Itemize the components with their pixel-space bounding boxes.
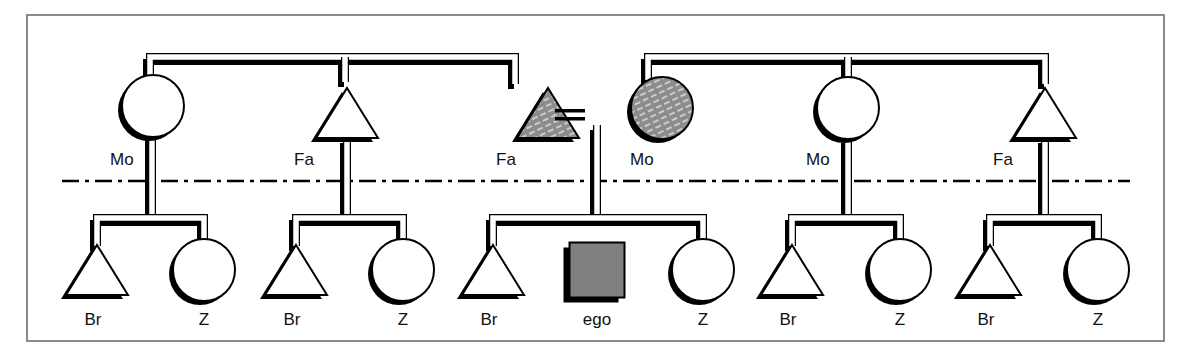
circle-node <box>865 239 931 305</box>
female-circle-icon <box>173 239 235 301</box>
female-circle-icon <box>631 77 693 139</box>
parent-bracket-left <box>146 57 515 89</box>
triangle-node <box>260 245 327 299</box>
circle-node <box>1063 239 1129 305</box>
connector-shadow <box>146 62 511 89</box>
equals-bar-bottom <box>555 117 585 121</box>
parent-label-fa: Fa <box>993 150 1013 169</box>
ego-square-icon <box>570 243 625 298</box>
female-circle-icon <box>672 239 734 301</box>
triangle-node <box>756 245 823 299</box>
female-circle-icon <box>122 75 184 137</box>
descent-stem <box>593 125 597 223</box>
triangle-node <box>954 245 1021 299</box>
male-triangle-icon <box>959 245 1021 295</box>
triangle-node <box>61 245 128 299</box>
descent-stem <box>844 138 848 223</box>
descent-stem <box>148 135 152 223</box>
shaded-circle-node <box>627 77 693 143</box>
parent-label-fa: Fa <box>496 150 516 169</box>
female-circle-icon <box>817 77 879 139</box>
male-triangle-icon <box>66 245 128 295</box>
child-label-br: Br <box>284 310 301 329</box>
descent-stem <box>343 138 347 223</box>
child-label-z: Z <box>895 310 905 329</box>
circle-node <box>169 239 235 305</box>
descent-stem <box>1041 138 1045 223</box>
male-triangle-icon <box>1014 88 1076 138</box>
circle-node <box>118 75 184 141</box>
equals-bar-top <box>555 109 585 113</box>
triangle-node <box>457 245 524 299</box>
circle-node <box>368 239 434 305</box>
male-triangle-icon <box>265 245 327 295</box>
child-label-br: Br <box>978 310 995 329</box>
circle-node <box>668 239 734 305</box>
child-label-br: Br <box>85 310 102 329</box>
parent-label-mo: Mo <box>630 150 654 169</box>
triangle-node <box>1009 88 1076 142</box>
parent-drop <box>341 57 345 87</box>
child-label-br: Br <box>780 310 797 329</box>
parent-label-mo: Mo <box>110 150 134 169</box>
female-circle-icon <box>869 239 931 301</box>
child-label-z: Z <box>199 310 209 329</box>
child-label-z: Z <box>398 310 408 329</box>
male-triangle-icon <box>761 245 823 295</box>
female-circle-icon <box>372 239 434 301</box>
kinship-diagram: MoFaFaMoMoFaBrZBrZBregoZBrZBrZ <box>0 0 1195 357</box>
triangle-node <box>311 88 378 142</box>
female-circle-icon <box>1067 239 1129 301</box>
child-label-z: Z <box>698 310 708 329</box>
child-label-z: Z <box>1093 310 1103 329</box>
connector-lines <box>93 57 1098 251</box>
male-triangle-icon <box>316 88 378 138</box>
circle-node <box>813 77 879 143</box>
shaded-triangle-node <box>512 88 579 142</box>
parent-label-fa: Fa <box>294 150 314 169</box>
parent-label-mo: Mo <box>806 150 830 169</box>
ego-square-node <box>564 243 625 303</box>
child-label-ego: ego <box>583 310 611 329</box>
male-triangle-icon <box>462 245 524 295</box>
child-label-br: Br <box>481 310 498 329</box>
male-triangle-icon <box>517 88 579 138</box>
